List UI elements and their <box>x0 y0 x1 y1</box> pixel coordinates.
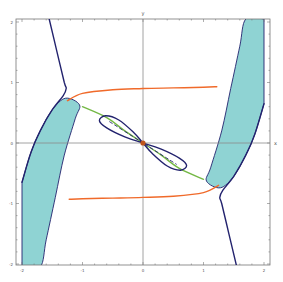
y-tick-label: 2 <box>10 20 13 25</box>
y-tick-label: 0 <box>10 141 13 146</box>
points <box>140 140 145 145</box>
y-tick-label: 1 <box>10 80 13 85</box>
x-tick-label: 1 <box>202 268 205 273</box>
chart-plot: -2-1012210-1-2xy <box>0 0 283 282</box>
y-tick-label: -2 <box>9 262 13 267</box>
x-axis-label: x <box>274 140 277 146</box>
x-tick-label: 2 <box>263 268 266 273</box>
orange-curve-upper <box>67 87 216 101</box>
orange-curve-lower <box>69 185 218 199</box>
shaded-band-right <box>206 17 264 188</box>
x-tick-label: -2 <box>20 268 24 273</box>
origin-point <box>140 140 145 145</box>
shaded-band-left <box>22 98 80 269</box>
x-tick-label: -1 <box>81 268 85 273</box>
x-tick-label: 0 <box>142 268 145 273</box>
y-tick-label: -1 <box>9 201 13 206</box>
y-axis-label: y <box>142 10 145 17</box>
